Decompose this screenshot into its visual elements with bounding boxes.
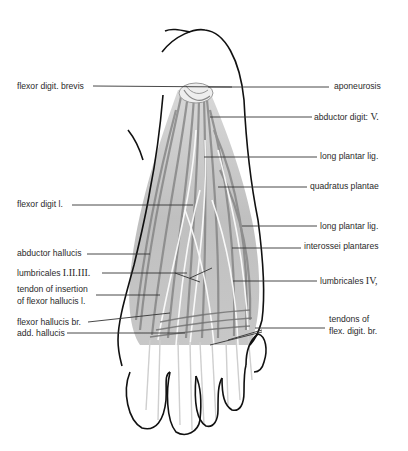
- label-flexor-digit-l: flexor digit l.: [17, 199, 63, 210]
- label-tendon-insertion-line1: tendon of insertion: [17, 284, 88, 295]
- label-interossei-plantares: interossei plantares: [304, 241, 379, 252]
- label-tendon-insertion-line2: of flexor hallucis l.: [17, 296, 85, 307]
- muscle-fibers: [129, 83, 259, 345]
- label-tendons-of-line1: tendons of: [329, 314, 369, 325]
- label-flexor-digit-brevis: flexor digit. brevis: [17, 81, 84, 92]
- label-lumbricales-i-ii-iii: lumbricales I.II.III.: [17, 267, 90, 279]
- label-tendons-of-line2: flex. digit. br.: [329, 326, 377, 337]
- label-abductor-hallucis: abductor hallucis: [17, 248, 82, 259]
- label-abductor-digit-v: abductor digit: V.: [314, 111, 379, 123]
- label-flexor-hallucis-br: flexor hallucis br.: [17, 317, 81, 328]
- label-quadratus-plantae: quadratus plantae: [310, 181, 379, 192]
- label-long-plantar-lig-2: long plantar lig.: [320, 221, 378, 232]
- label-add-hallucis: add. hallucis: [17, 328, 65, 339]
- label-aponeurosis: aponeurosis: [334, 81, 381, 92]
- label-lumbricales-iv: lumbricales IV,: [320, 275, 378, 287]
- label-long-plantar-lig-1: long plantar lig.: [320, 151, 378, 162]
